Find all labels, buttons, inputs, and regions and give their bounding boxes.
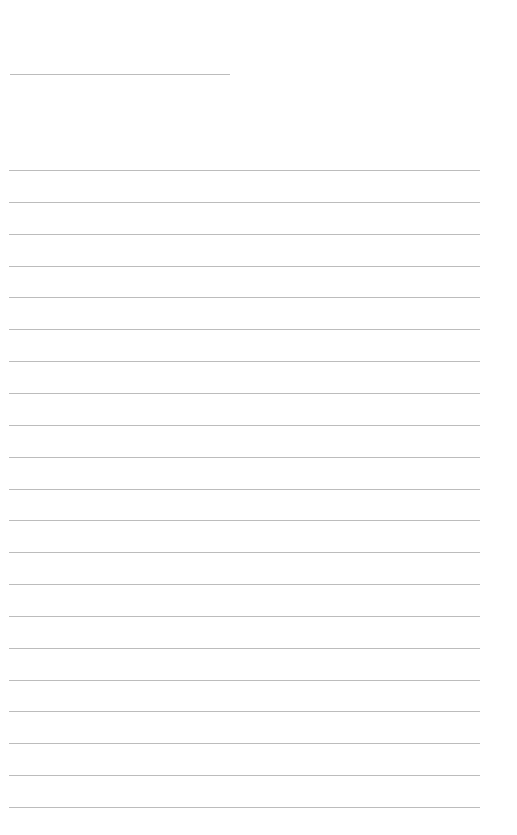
ruled-line <box>9 711 480 712</box>
ruled-line <box>9 680 480 681</box>
ruled-line <box>9 616 480 617</box>
ruled-line <box>9 393 480 394</box>
ruled-line <box>9 361 480 362</box>
ruled-line <box>9 457 480 458</box>
ruled-line <box>9 425 480 426</box>
ruled-line <box>9 329 480 330</box>
lined-paper-page <box>0 0 517 835</box>
ruled-line <box>9 520 480 521</box>
ruled-line <box>9 234 480 235</box>
ruled-line <box>9 170 480 171</box>
ruled-line <box>9 648 480 649</box>
ruled-line <box>9 266 480 267</box>
ruled-line <box>9 775 480 776</box>
title-line <box>10 74 230 75</box>
ruled-line <box>9 552 480 553</box>
ruled-line <box>9 297 480 298</box>
ruled-line <box>9 807 480 808</box>
ruled-line <box>9 743 480 744</box>
ruled-line <box>9 489 480 490</box>
ruled-line <box>9 202 480 203</box>
ruled-line <box>9 584 480 585</box>
